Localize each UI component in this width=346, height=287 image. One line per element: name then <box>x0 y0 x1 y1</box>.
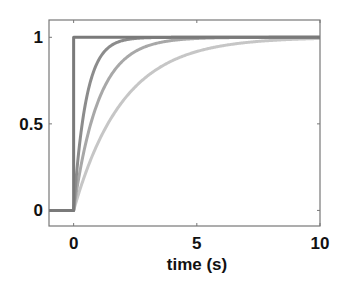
curves <box>49 37 320 210</box>
x-tick-label: 0 <box>69 234 78 253</box>
y-tick-label: 1 <box>34 28 43 47</box>
y-tick-label: 0 <box>34 201 43 220</box>
series-line-tau_1 <box>49 37 320 210</box>
x-tick-label: 10 <box>311 234 330 253</box>
y-tick-label: 0.5 <box>19 115 43 134</box>
response-chart: 051000.51 time (s) <box>0 0 346 287</box>
x-axis-label: time (s) <box>167 255 227 274</box>
x-tick-label: 5 <box>192 234 201 253</box>
tick-labels: 051000.51 <box>19 28 329 253</box>
